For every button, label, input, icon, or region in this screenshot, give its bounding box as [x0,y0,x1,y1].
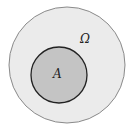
subset-label: A [52,67,62,81]
universe-label: Ω [79,32,90,46]
venn-diagram: Ω A [0,0,133,130]
